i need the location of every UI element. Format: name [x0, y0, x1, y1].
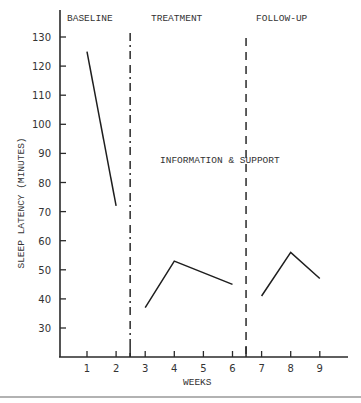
x-axis-ticks: 123456789 — [84, 351, 323, 374]
phase-dividers — [130, 33, 246, 357]
x-tick-label: 3 — [142, 363, 148, 374]
y-tick-label: 30 — [38, 323, 51, 334]
phase-label-treatment: TREATMENT — [151, 13, 203, 24]
y-tick-label: 40 — [38, 294, 51, 305]
x-tick-label: 8 — [288, 363, 294, 374]
x-tick-label: 4 — [171, 363, 177, 374]
x-tick-label: 7 — [258, 363, 264, 374]
series-line-treatment — [145, 261, 232, 308]
series-line-follow-up — [262, 252, 320, 296]
phase-label-baseline: BASELINE — [67, 13, 113, 24]
sleep-latency-chart: 30405060708090100110120130 123456789 BAS… — [0, 0, 361, 403]
data-series — [87, 52, 320, 308]
y-axis-title: SLEEP LATENCY (MINUTES) — [16, 137, 27, 268]
x-tick-label: 1 — [84, 363, 90, 374]
phase-label-followup: FOLLOW-UP — [256, 13, 308, 24]
x-tick-label: 5 — [200, 363, 206, 374]
y-tick-label: 80 — [38, 178, 51, 189]
y-tick-label: 90 — [38, 148, 51, 159]
y-axis-ticks: 30405060708090100110120130 — [32, 32, 66, 334]
x-tick-label: 6 — [229, 363, 235, 374]
y-tick-label: 120 — [32, 61, 51, 72]
x-tick-label: 9 — [317, 363, 323, 374]
y-tick-label: 70 — [38, 207, 51, 218]
y-tick-label: 110 — [32, 90, 51, 101]
x-tick-label: 2 — [113, 363, 119, 374]
x-axis-title: WEEKS — [183, 377, 212, 388]
annotation-information-support: INFORMATION & SUPPORT — [160, 155, 280, 166]
y-tick-label: 60 — [38, 236, 51, 247]
y-tick-label: 100 — [32, 119, 51, 130]
y-tick-label: 130 — [32, 32, 51, 43]
series-line-baseline — [87, 52, 116, 206]
y-tick-label: 50 — [38, 265, 51, 276]
